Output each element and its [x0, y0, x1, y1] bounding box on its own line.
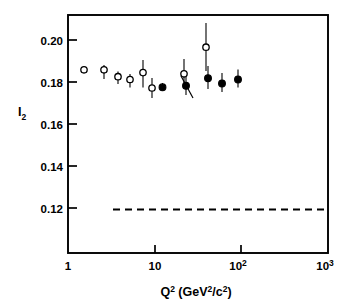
filled-marker [219, 80, 226, 87]
figure-container: 0.20 0.18 0.16 0.14 0.12 I2 1 10 [0, 0, 354, 308]
x-tick-label-1000: 103 [316, 258, 334, 273]
filled-circle-series [159, 66, 241, 95]
x-tick-label-1: 1 [65, 260, 72, 272]
x-axis-title-q: Q [160, 285, 170, 299]
open-marker [127, 76, 133, 82]
open-marker [149, 85, 155, 91]
data-point-open-6 [149, 78, 155, 98]
x-tick-label-100: 102 [229, 258, 247, 273]
x-axis-title: Q2 (GeV2/c2) [160, 284, 231, 300]
data-point-open-1 [81, 67, 87, 73]
y-axis-title-subscript: 2 [21, 112, 26, 122]
y-tick-label-2: 0.16 [41, 119, 63, 131]
open-marker [181, 71, 187, 77]
data-point-filled-4 [219, 73, 226, 92]
x-axis-title-unit-open: (GeV [175, 285, 208, 299]
svg-text:Q2 (GeV2/c2): Q2 (GeV2/c2) [160, 284, 231, 300]
filled-marker [159, 84, 166, 91]
filled-marker [235, 76, 242, 83]
data-point-filled-5 [235, 70, 242, 88]
data-point-open-5 [140, 60, 146, 88]
y-tick-label-0: 0.20 [41, 35, 63, 47]
x-axis-tick-labels: 1 10 102 103 [65, 258, 334, 273]
open-marker [101, 67, 107, 73]
filled-marker [183, 82, 190, 89]
x-axis-title-unit-close: ) [227, 285, 231, 299]
y-axis-tick-labels: 0.20 0.18 0.16 0.14 0.12 [41, 35, 64, 215]
open-marker [81, 67, 87, 73]
y-tick-label-3: 0.14 [41, 161, 64, 173]
y-axis-title: I2 [18, 105, 26, 122]
scatter-plot: 0.20 0.18 0.16 0.14 0.12 I2 1 10 [0, 0, 354, 308]
data-point-filled-1 [159, 83, 166, 91]
open-marker [115, 74, 121, 80]
open-circle-series [81, 23, 209, 98]
plot-frame [68, 15, 328, 253]
data-point-open-8 [203, 23, 209, 71]
svg-text:I2: I2 [18, 105, 26, 122]
open-marker [203, 44, 209, 50]
x-axis-title-slash-c: /c [212, 285, 222, 299]
x-axis-ticks [155, 245, 241, 253]
data-point-open-2 [101, 65, 107, 79]
x-tick-label-10: 10 [149, 260, 162, 272]
filled-marker [205, 75, 212, 82]
y-tick-label-1: 0.18 [41, 77, 64, 89]
data-point-open-4 [127, 74, 133, 88]
open-marker [140, 69, 146, 75]
data-point-open-3 [115, 72, 121, 85]
y-tick-label-4: 0.12 [41, 203, 63, 215]
y-axis-ticks [68, 40, 77, 208]
